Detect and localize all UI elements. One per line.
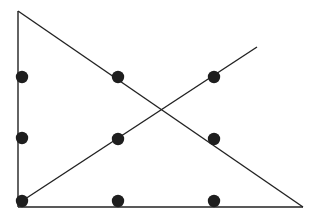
dot xyxy=(208,195,220,207)
diagonal-down-line xyxy=(18,11,303,207)
dot xyxy=(208,71,220,83)
connecting-lines xyxy=(18,11,303,207)
dot xyxy=(16,132,28,144)
dot xyxy=(112,195,124,207)
dot xyxy=(16,195,28,207)
nine-dot-diagram xyxy=(0,0,321,220)
diagonal-up-line xyxy=(22,47,257,201)
dot xyxy=(112,71,124,83)
dot xyxy=(112,133,124,145)
dot xyxy=(16,71,28,83)
dot xyxy=(208,133,220,145)
